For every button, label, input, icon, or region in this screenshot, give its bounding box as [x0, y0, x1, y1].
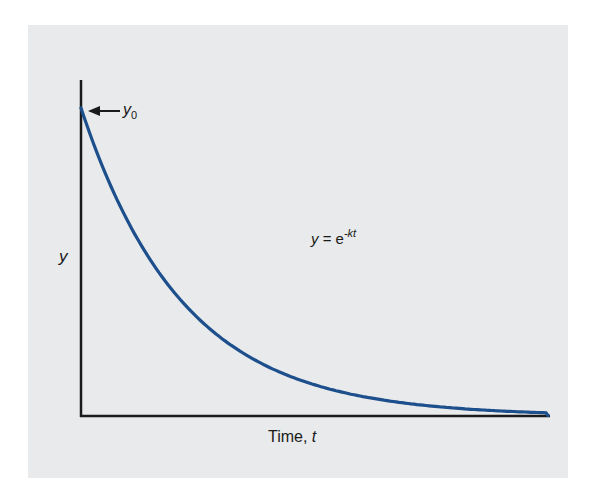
y0-arrow: [88, 106, 120, 116]
y0-label: y0: [123, 101, 137, 121]
y-axis-label: y: [59, 247, 68, 267]
plot-area: [0, 0, 595, 500]
x-axis-label: Time, t: [268, 428, 316, 446]
equation-label: y = e-kt: [311, 228, 356, 247]
decay-curve: [81, 108, 548, 416]
